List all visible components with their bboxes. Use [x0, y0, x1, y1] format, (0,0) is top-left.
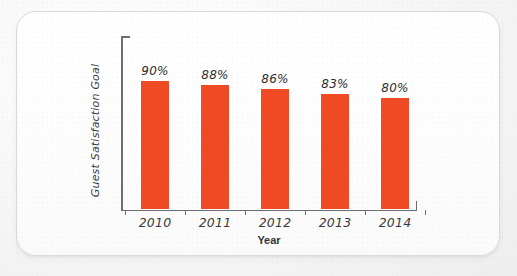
bar[interactable] [381, 98, 409, 209]
bar-value-label: 83% [307, 77, 363, 91]
bar-chart: Guest Satisfaction Goal Year 90%201088%2… [17, 12, 499, 255]
x-axis-tick-label: 2012 [245, 215, 305, 230]
x-axis-tick [425, 210, 426, 215]
x-axis-tick-label: 2011 [185, 215, 245, 230]
bar-value-label: 80% [367, 81, 423, 95]
bar[interactable] [141, 81, 169, 209]
bar[interactable] [261, 89, 289, 209]
bar-value-label: 86% [247, 72, 303, 86]
bar-value-label: 90% [127, 64, 183, 78]
x-axis-tick-label: 2013 [305, 215, 365, 230]
scanned-page-background: Guest Satisfaction Goal Year 90%201088%2… [0, 0, 517, 276]
bar-value-label: 88% [187, 68, 243, 82]
y-axis-line [121, 36, 123, 211]
x-axis-tick-label: 2014 [365, 215, 425, 230]
chart-card: Guest Satisfaction Goal Year 90%201088%2… [16, 11, 500, 256]
x-axis-line [121, 210, 417, 212]
bar[interactable] [321, 94, 349, 209]
y-axis-title: Guest Satisfaction Goal [89, 41, 102, 221]
x-axis-right-cap [416, 201, 418, 210]
x-axis-title: Year [121, 234, 417, 246]
y-axis-top-cap [121, 36, 130, 38]
x-axis-tick-label: 2010 [125, 215, 185, 230]
bar[interactable] [201, 85, 229, 209]
